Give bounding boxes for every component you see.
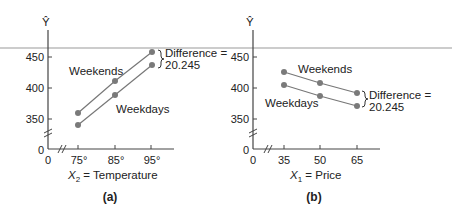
- annotation-a-line1: Difference =: [165, 47, 227, 59]
- legend-weekends-a: Weekends: [69, 65, 123, 77]
- x-tick: 35: [278, 154, 290, 166]
- x-axis-label-b: X1 = Price: [289, 169, 341, 184]
- y-tick: 450: [231, 51, 249, 63]
- x-tick: 95°: [144, 154, 161, 166]
- x-tick: 65: [351, 154, 363, 166]
- panel-caption-b: (b): [306, 190, 321, 204]
- chart-a: Ŷ 450 400 350 0 0 75° 85° 95° X2 = Tempe…: [26, 16, 228, 204]
- y-origin: 0: [243, 144, 249, 156]
- panel-caption-a: (a): [103, 190, 118, 204]
- legend-weekdays-b: Weekdays: [265, 97, 319, 109]
- annotation-b-line2: 20.245: [369, 101, 404, 113]
- legend-weekends-b: Weekends: [298, 63, 352, 75]
- figure: Ŷ 450 400 350 0 0 75° 85° 95° X2 = Tempe…: [0, 0, 452, 216]
- y-tick: 400: [231, 82, 249, 94]
- y-tick: 400: [26, 82, 44, 94]
- y-tick: 350: [26, 113, 44, 125]
- brace-icon: [158, 50, 164, 68]
- x-tick: 75°: [71, 154, 88, 166]
- x-tick: 85°: [108, 154, 125, 166]
- chart-b: Ŷ 450 400 350 0 0 35 50 65 X1 = Price: [231, 16, 432, 204]
- x-origin: 0: [250, 154, 256, 166]
- brace-icon: [362, 91, 368, 107]
- y-tick: 350: [231, 113, 249, 125]
- legend-weekdays-a: Weekdays: [116, 103, 170, 115]
- data-points-a: [75, 49, 155, 128]
- x-origin: 0: [45, 154, 51, 166]
- annotation-a-line2: 20.245: [165, 59, 200, 71]
- x-tick: 50: [314, 154, 326, 166]
- y-tick: 450: [26, 51, 44, 63]
- x-axis-label-a: X2 = Temperature: [67, 169, 158, 184]
- y-origin: 0: [38, 144, 44, 156]
- y-axis-label-a: Ŷ: [42, 16, 50, 28]
- annotation-b-line1: Difference =: [369, 89, 431, 101]
- y-axis-label-b: Ŷ: [246, 16, 254, 28]
